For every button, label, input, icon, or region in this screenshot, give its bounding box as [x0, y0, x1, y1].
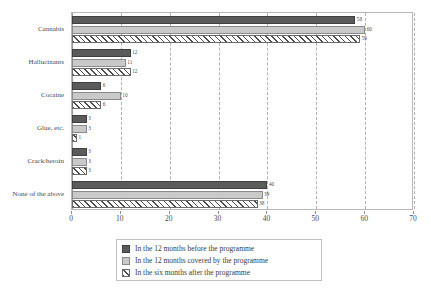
bar-value-label: 3 [88, 168, 91, 173]
bar-value-label: 11 [127, 60, 132, 65]
bar-value-label: 6 [103, 83, 106, 88]
bar-row: 38 [72, 200, 414, 208]
bar-row: 6 [72, 101, 414, 109]
bar-row: 6 [72, 82, 414, 90]
legend-label: In the six months after the programme [135, 269, 250, 277]
bar-row: 60 [72, 26, 414, 34]
bar [72, 92, 121, 100]
category-label: Hallucinants [29, 58, 64, 65]
tick-label-10: 10 [116, 215, 124, 223]
category-label: Glue, etc. [37, 124, 64, 131]
category-label: Crack/heroin [27, 157, 64, 164]
bar [72, 200, 258, 208]
bar [72, 181, 267, 189]
bar [72, 191, 263, 199]
bar-row: 10 [72, 92, 414, 100]
legend-item: In the 12 months covered by the programm… [122, 255, 316, 267]
bar [72, 16, 355, 24]
bar-value-label: 3 [88, 116, 91, 121]
bar-row: 11 [72, 59, 414, 67]
bar [72, 148, 87, 156]
legend-item: In the 12 months before the programme [122, 243, 316, 255]
bar-row: 40 [72, 181, 414, 189]
bar-row: 3 [72, 115, 414, 123]
bar-row: 58 [72, 16, 414, 24]
bar-value-label: 60 [367, 27, 372, 32]
bar [72, 68, 131, 76]
bar-value-label: 12 [132, 69, 137, 74]
bar-value-label: 3 [88, 159, 91, 164]
category-label: Cannabis [38, 25, 64, 32]
chart-legend: In the 12 months before the programmeIn … [116, 239, 322, 281]
bars-layer: 5860591211126106331333403938 [72, 13, 412, 209]
bar-row: 3 [72, 167, 414, 175]
bar-chart-figure: CannabisHallucinantsCocaineGlue, etc.Cra… [0, 0, 431, 288]
bar-row: 39 [72, 191, 414, 199]
bar-row: 12 [72, 49, 414, 57]
bar [72, 134, 77, 142]
bar-row: 12 [72, 68, 414, 76]
bar-value-label: 1 [78, 135, 81, 140]
value-axis: 010203040506070 [71, 211, 413, 227]
bar-value-label: 40 [269, 182, 274, 187]
legend-label: In the 12 months covered by the programm… [135, 257, 268, 265]
bar-value-label: 3 [88, 149, 91, 154]
tick-label-20: 20 [165, 215, 173, 223]
bar-row: 1 [72, 134, 414, 142]
legend-label: In the 12 months before the programme [135, 245, 254, 253]
tick-label-40: 40 [263, 215, 271, 223]
category-label: Cocaine [41, 91, 64, 98]
tick-label-70: 70 [409, 215, 417, 223]
tick-label-30: 30 [214, 215, 222, 223]
tick-label-0: 0 [69, 215, 73, 223]
bar-value-label: 10 [122, 93, 127, 98]
bar [72, 35, 360, 43]
bar-row: 3 [72, 158, 414, 166]
bar [72, 82, 101, 90]
bar [72, 101, 101, 109]
gridline-70 [414, 13, 415, 209]
bar-value-label: 3 [88, 126, 91, 131]
bar-row: 59 [72, 35, 414, 43]
category-axis-labels: CannabisHallucinantsCocaineGlue, etc.Cra… [0, 12, 68, 210]
legend-item: In the six months after the programme [122, 267, 316, 279]
bar [72, 26, 365, 34]
bar [72, 158, 87, 166]
tick-label-60: 60 [360, 215, 368, 223]
plot-area: 5860591211126106331333403938 [71, 12, 413, 210]
bar-value-label: 59 [362, 36, 367, 41]
bar-value-label: 6 [103, 102, 106, 107]
legend-swatch [122, 245, 130, 253]
bar [72, 115, 87, 123]
bar-value-label: 58 [357, 17, 362, 22]
tick-label-50: 50 [312, 215, 320, 223]
bar-value-label: 39 [264, 192, 269, 197]
bar [72, 125, 87, 133]
bar-value-label: 12 [132, 50, 137, 55]
legend-swatch [122, 257, 130, 265]
category-label: None of the above [12, 190, 64, 197]
bar-row: 3 [72, 148, 414, 156]
bar-row: 3 [72, 125, 414, 133]
bar [72, 59, 126, 67]
legend-swatch [122, 269, 130, 277]
bar [72, 167, 87, 175]
bar [72, 49, 131, 57]
bar-value-label: 38 [259, 201, 264, 206]
